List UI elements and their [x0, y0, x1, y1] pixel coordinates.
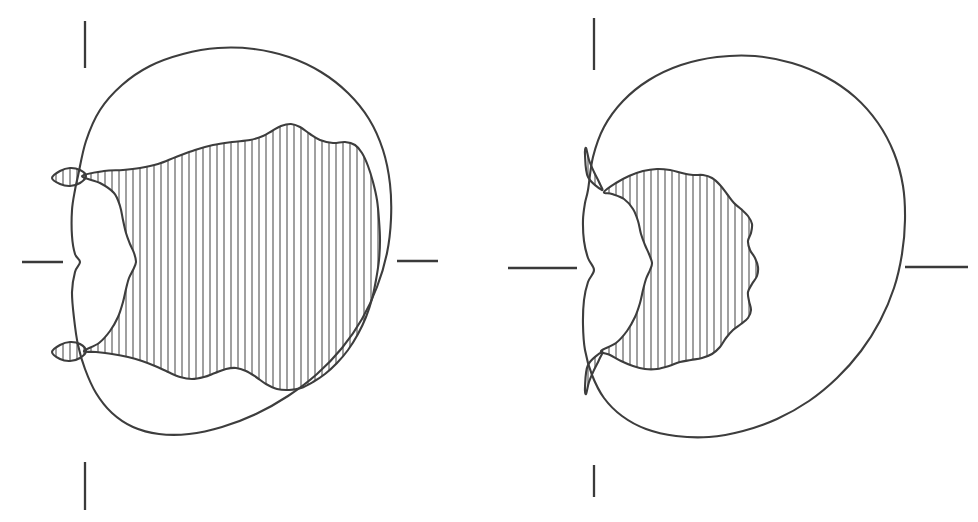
left-panel-tick-marks [22, 21, 438, 510]
figure-canvas [0, 0, 978, 522]
right-outer-boundary [583, 55, 905, 437]
left-lower-lens [52, 342, 86, 361]
left-upper-lens [52, 168, 86, 186]
right-panel-tick-marks [508, 18, 968, 497]
right-panel [0, 0, 973, 522]
figure-root [0, 0, 978, 522]
